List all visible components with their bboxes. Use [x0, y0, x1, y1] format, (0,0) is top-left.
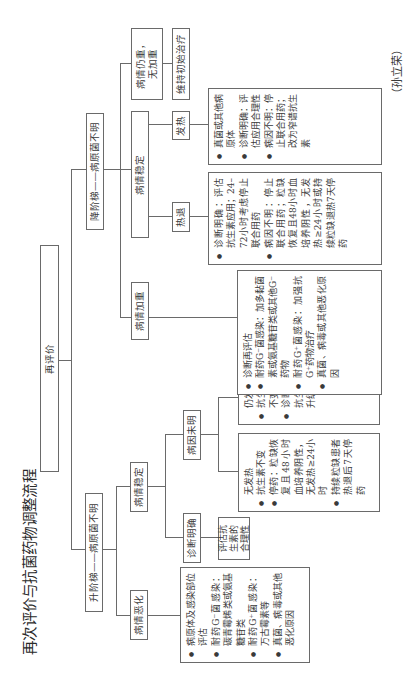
connector	[59, 360, 71, 361]
connector	[201, 434, 218, 435]
detail-item: 诊断明确：评估抗生素应用；24–72小时考虑停止联合用药	[213, 178, 263, 259]
node-label: 升阶梯——病原菌不明	[88, 503, 100, 602]
node-reevaluation: 再评价	[40, 245, 59, 472]
node-label: 热退	[175, 207, 187, 227]
detail-item: 真菌或其他病原体	[213, 94, 238, 159]
node-escalation: 升阶梯——病原菌不明	[85, 493, 103, 612]
connector	[71, 169, 72, 550]
connector	[120, 63, 121, 318]
node-label: 维持初始治疗	[175, 34, 187, 94]
detail-item: 诊断明确：评估应用合理性	[238, 94, 263, 159]
node-escalation-stable: 病情稳定	[130, 462, 148, 512]
connector	[190, 216, 208, 217]
detail-item: 耐药G⁻菌感染：碳青霉烯类或氨基糖苷类	[210, 573, 247, 657]
connector	[163, 63, 172, 64]
detail-item: 耐药G⁺菌感染：加强抗G⁺药物治疗	[292, 276, 317, 389]
node-maintain-initial-therapy: 维持初始治疗	[172, 28, 190, 100]
detail-item: 耐药G⁺菌感染：万古霉素等	[247, 573, 272, 657]
connector	[218, 471, 238, 472]
detail-deescalation-worsening: 诊断再评估 耐药G⁻菌感染：加多黏菌素或氨基糖苷类或其他G⁻药物 耐药G⁺菌感染…	[237, 270, 382, 395]
connector	[218, 397, 238, 398]
node-label: 降阶梯——病原菌不明	[89, 122, 101, 221]
connector	[104, 169, 120, 170]
detail-item: 病因不明：停止联合用药；粒缺恢复且48小时血培养阴性，无发热≥24小时或持续粒缺…	[263, 178, 350, 259]
detail-defervescence: 诊断明确：评估抗生素应用；24–72小时考虑停止联合用药 病因不明：停止联合用药…	[208, 172, 382, 265]
node-label: 病情恶化	[133, 595, 145, 635]
detail-item: 持续粒缺患者热退后7天停药	[330, 439, 367, 506]
node-fever: 发热	[172, 111, 190, 140]
connector	[148, 615, 180, 616]
connector	[201, 537, 218, 538]
flowchart-stage: 再次评价与抗菌药物调整流程 再评价 升阶梯——病原菌不明 病情稳定 诊断明确 评…	[0, 0, 416, 679]
connector	[71, 169, 86, 170]
detail-evaluate-rationality: 评估抗生素的合理性	[218, 517, 250, 560]
detail-item: 病因不明：停止联合用药；改为窄谱抗生素	[263, 94, 313, 159]
author-credit: （孙立荣）	[388, 39, 404, 99]
node-label-line1: 病情仍重，	[135, 39, 147, 89]
detail-heading: 无发热	[243, 439, 255, 506]
connector	[218, 397, 219, 472]
node-deescalation-worsening: 病情加重	[131, 282, 149, 340]
connector	[149, 124, 172, 125]
node-label: 诊断明确	[186, 518, 198, 558]
detail-item: 真菌、病毒或其他恶化原因	[316, 276, 341, 389]
node-label: 病情稳定	[133, 467, 145, 507]
detail-escalation-worsening: 病原体及感染部位评估 耐药G⁻菌感染：碳青霉烯类或氨基糖苷类 耐药G⁺菌感染：万…	[180, 567, 310, 663]
connector	[165, 537, 183, 538]
connector	[120, 63, 131, 64]
detail-text: 评估抗生素的合理性	[218, 521, 251, 556]
connector	[116, 486, 130, 487]
connector	[116, 615, 130, 616]
connector	[116, 486, 117, 616]
node-label: 发热	[175, 116, 187, 136]
connector	[120, 169, 131, 170]
node-label: 病情稳定	[134, 155, 146, 195]
detail-item: 诊断再评估	[242, 276, 254, 389]
node-deescalation: 降阶梯——病原菌不明	[86, 113, 104, 230]
connector	[149, 317, 237, 318]
page-title: 再次评价与抗菌药物调整流程	[18, 445, 39, 655]
detail-item: 真菌、病毒或其他恶化原因	[272, 573, 297, 657]
connector	[149, 216, 172, 217]
node-still-severe: 病情仍重， 无加重	[131, 28, 163, 100]
node-label: 病情加重	[134, 291, 146, 331]
connector	[71, 549, 85, 550]
node-label: 再评价	[44, 344, 56, 374]
detail-item: 抗生素不变	[255, 439, 267, 506]
connector	[148, 486, 165, 487]
node-deescalation-stable: 病情稳定	[131, 111, 149, 238]
connector	[165, 434, 166, 538]
node-escalation-worsening: 病情恶化	[130, 590, 148, 640]
detail-fever: 真菌或其他病原体 诊断明确：评估应用合理性 病因不明：停止联合用药；改为窄谱抗生…	[208, 88, 382, 165]
node-defervescence: 热退	[172, 202, 190, 232]
connector	[120, 317, 131, 318]
detail-item: 病原体及感染部位评估	[185, 573, 210, 657]
connector	[103, 549, 116, 550]
detail-no-fever: 无发热 抗生素不变 停药：粒缺恢复且48小时血培养阴性，无发热≥24小时 持续粒…	[238, 433, 380, 512]
node-unknown-cause: 病因未明	[183, 410, 201, 460]
node-label-line2: 无加重	[147, 49, 159, 79]
detail-item: 耐药G⁻菌感染：加多黏菌素或氨基糖苷类或其他G⁻药物	[254, 276, 291, 389]
node-label: 病因未明	[186, 415, 198, 455]
connector	[190, 124, 208, 125]
connector	[165, 434, 183, 435]
detail-item: 停药：粒缺恢复且48小时血培养阴性，无发热≥24小时	[268, 439, 330, 506]
node-clear-diagnosis: 诊断明确	[183, 513, 201, 563]
